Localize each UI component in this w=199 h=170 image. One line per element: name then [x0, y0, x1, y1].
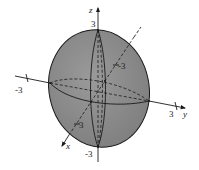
x-tick-label-neg3: -3	[118, 61, 126, 71]
z-tick-label-3: 3	[91, 19, 96, 29]
x-axis-label: x	[65, 141, 70, 151]
ellipsoid-diagram: z 3 -3 -3 3 y -3 3 x	[0, 0, 199, 170]
x-axis-negative	[134, 27, 141, 37]
y-tick-label-3: 3	[169, 109, 174, 119]
y-tick-label-neg3: -3	[15, 85, 23, 95]
z-axis-label: z	[88, 5, 93, 15]
intercept-dot	[104, 80, 106, 82]
y-axis-positive	[149, 101, 185, 108]
intercept-dot	[148, 100, 150, 102]
y-axis-negative	[15, 76, 50, 83]
z-tick-label-neg3: -3	[85, 149, 93, 159]
intercept-dot	[97, 29, 99, 31]
x-tick-label-3: 3	[79, 120, 84, 130]
intercept-dot	[90, 101, 92, 103]
intercept-dot	[97, 146, 99, 148]
y-axis-label: y	[182, 109, 187, 119]
intercept-dot	[49, 82, 51, 84]
